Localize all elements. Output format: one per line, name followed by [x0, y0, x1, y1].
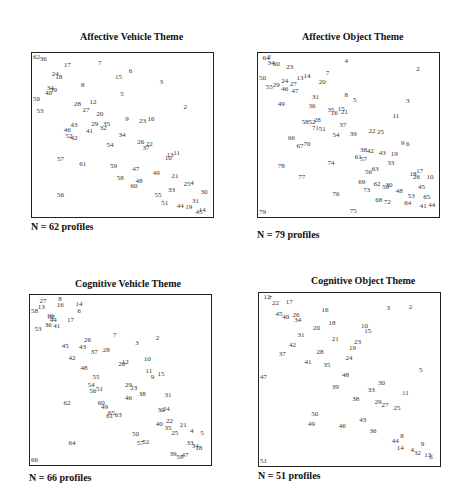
panel-title: Affective Object Theme [302, 31, 403, 42]
data-point-label: 36 [369, 428, 376, 435]
data-point-label: 13 [38, 304, 45, 311]
data-point-label: 49 [278, 101, 285, 108]
data-point-label: 24 [163, 406, 170, 413]
data-point-label: 27 [83, 107, 90, 114]
data-point-label: 47 [260, 374, 267, 381]
data-point-label: 61 [106, 413, 113, 420]
data-point-label: 4 [190, 428, 194, 435]
data-point-label: 6 [129, 68, 133, 75]
data-point-label: 75 [350, 208, 357, 215]
data-point-label: 56 [365, 169, 372, 176]
data-point-label: 16 [322, 307, 329, 314]
data-point-label: 33 [387, 160, 394, 167]
data-point-label: 14 [303, 73, 310, 80]
data-point-label: 27 [381, 402, 388, 409]
data-point-label: 57 [57, 156, 64, 163]
data-point-label: 22 [272, 300, 279, 307]
data-point-label: 2 [409, 304, 413, 311]
data-point-label: 54 [107, 142, 114, 149]
data-point-label: 59 [110, 163, 117, 170]
data-point-label: 7 [326, 70, 330, 77]
data-point-label: 4 [345, 58, 349, 65]
data-point-label: 38 [352, 396, 359, 403]
data-point-label: 6 [77, 308, 81, 315]
data-point-label: 29 [273, 82, 280, 89]
data-point-label: 46 [281, 86, 288, 93]
scatter-plot-area: 2781614136581932441736415372263454337284… [29, 294, 212, 466]
data-point-label: 7 [98, 60, 102, 67]
data-point-label: 14 [397, 445, 404, 452]
data-point-label: 54 [333, 132, 340, 139]
data-point-label: 41 [304, 359, 311, 366]
data-point-label: 60 [130, 183, 137, 190]
data-point-label: 41 [420, 203, 427, 210]
data-point-label: 21 [180, 422, 187, 429]
data-point-label: 30 [378, 380, 385, 387]
data-point-label: 70 [303, 141, 310, 148]
data-point-label: 22 [368, 128, 375, 135]
data-point-label: 66 [31, 457, 38, 464]
data-point-label: 18 [328, 320, 335, 327]
data-point-label: 16 [148, 116, 155, 123]
data-point-label: 11 [402, 390, 409, 397]
data-point-label: 62 [63, 400, 70, 407]
data-point-label: 58 [117, 175, 124, 182]
data-point-label: 48 [342, 372, 349, 379]
data-point-label: 47 [291, 88, 298, 95]
data-point-label: 9 [151, 374, 155, 381]
data-point-label: 9 [421, 441, 425, 448]
data-point-label: 43 [379, 150, 386, 157]
data-point-label: 44 [177, 203, 184, 210]
data-point-label: 10 [144, 356, 151, 363]
data-point-label: 6 [429, 454, 433, 461]
data-point-label: 31 [164, 392, 171, 399]
data-point-label: 53 [34, 326, 41, 333]
data-point-label: 51 [319, 126, 326, 133]
data-point-label: 3 [387, 305, 391, 312]
sample-size-label: N = 62 profiles [31, 221, 93, 232]
data-point-label: 36 [40, 56, 47, 63]
data-point-label: 9 [401, 140, 405, 147]
data-point-label: 16 [331, 110, 338, 117]
data-point-label: 43 [71, 122, 78, 129]
data-point-label: 19 [391, 151, 398, 158]
data-point-label: 25 [393, 405, 400, 412]
data-point-label: 45 [195, 209, 202, 216]
data-point-label: 45 [62, 343, 69, 350]
data-point-label: 20 [319, 79, 326, 86]
data-point-label: 53 [36, 108, 43, 115]
data-point-label: 51 [96, 386, 103, 393]
data-point-label: 3 [160, 79, 164, 86]
data-point-label: 47 [132, 166, 139, 173]
data-point-label: 50 [311, 411, 318, 418]
data-point-label: 3 [135, 340, 139, 347]
data-point-label: 5 [353, 97, 357, 104]
data-point-label: 51 [161, 200, 168, 207]
data-point-label: 40 [45, 90, 52, 97]
data-point-label: 17 [64, 62, 71, 69]
data-point-label: 45 [418, 184, 425, 191]
data-point-label: 76 [333, 191, 340, 198]
data-point-label: 56 [57, 192, 64, 199]
data-point-label: 24 [346, 355, 353, 362]
data-point-label: 3 [406, 98, 410, 105]
data-point-label: 34 [294, 317, 301, 324]
panel-title: Cognitive Vehicle Theme [75, 278, 181, 289]
data-point-label: 57 [360, 156, 367, 163]
data-point-label: 74 [327, 160, 334, 167]
data-point-label: 15 [115, 74, 122, 81]
data-point-label: 21 [332, 336, 339, 343]
data-point-label: 35 [323, 362, 330, 369]
data-point-label: 64 [404, 200, 411, 207]
data-point-label: 47 [181, 452, 188, 459]
data-point-label: 33 [368, 387, 375, 394]
data-point-label: 15 [158, 371, 165, 378]
data-point-label: 28 [74, 101, 81, 108]
data-point-label: 42 [367, 148, 374, 155]
data-point-label: 18 [195, 445, 202, 452]
data-point-label: 5 [120, 91, 124, 98]
data-point-label: 11 [392, 113, 399, 120]
data-point-label: 33 [168, 187, 175, 194]
data-point-label: 20 [118, 361, 125, 368]
data-point-label: 49 [153, 170, 160, 177]
